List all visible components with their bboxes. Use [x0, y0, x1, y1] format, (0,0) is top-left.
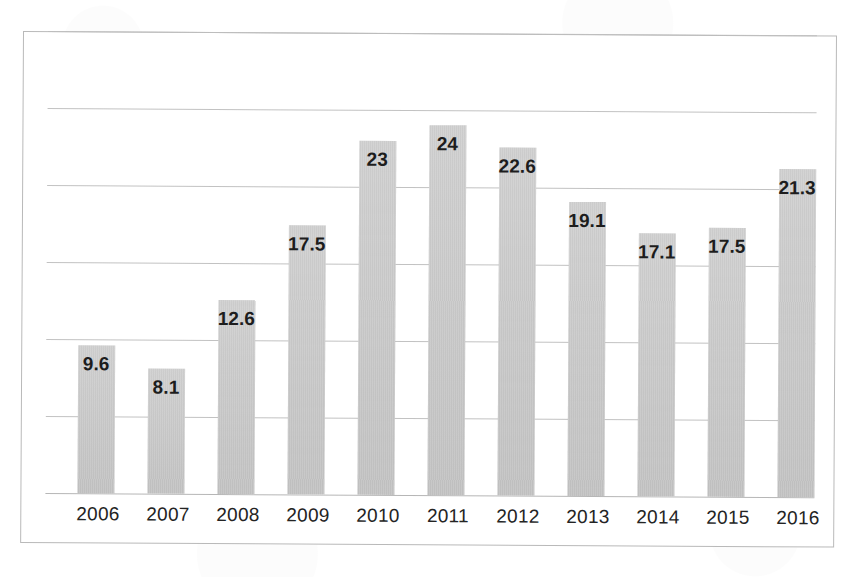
page-canvas: 9.68.112.617.5232422.619.117.117.521.3 2…	[0, 0, 858, 577]
x-tick-2013: 2013	[553, 506, 623, 528]
bar-value-label-2008: 12.6	[201, 308, 271, 330]
bar-group-2011[interactable]: 24	[410, 33, 483, 495]
x-tick-2016: 2016	[763, 507, 833, 529]
bar-2016[interactable]	[777, 169, 816, 497]
bar-value-label-2016: 21.3	[762, 177, 832, 199]
bar-group-2009[interactable]: 17.5	[270, 32, 343, 494]
x-tick-2011: 2011	[413, 505, 483, 527]
bar-value-label-2007: 8.1	[131, 377, 201, 399]
x-axis-tick-labels: 2006200720082009201020112012201320142015…	[48, 503, 817, 543]
bar-group-2006[interactable]: 9.6	[60, 31, 133, 493]
bar-group-2012[interactable]: 22.6	[480, 33, 553, 495]
bar-group-2016[interactable]: 21.3	[760, 35, 833, 497]
x-tick-2008: 2008	[203, 504, 273, 526]
x-tick-2010: 2010	[343, 505, 413, 527]
x-tick-2007: 2007	[133, 503, 203, 525]
bar-2009[interactable]	[287, 225, 326, 495]
bars-group: 9.68.112.617.5232422.619.117.117.521.3	[45, 31, 817, 497]
x-tick-2015: 2015	[693, 507, 763, 529]
bar-value-label-2013: 19.1	[552, 210, 622, 232]
bar-value-label-2011: 24	[412, 133, 482, 155]
bar-group-2010[interactable]: 23	[340, 33, 413, 495]
bar-group-2014[interactable]: 17.1	[620, 34, 693, 496]
x-tick-2006: 2006	[63, 503, 133, 525]
bar-2010[interactable]	[357, 141, 396, 495]
x-tick-2014: 2014	[623, 506, 693, 528]
bar-value-label-2014: 17.1	[622, 241, 692, 263]
x-tick-2009: 2009	[273, 504, 343, 526]
bar-value-label-2006: 9.6	[61, 353, 131, 375]
bar-2015[interactable]	[707, 227, 746, 497]
bar-group-2015[interactable]: 17.5	[690, 35, 763, 497]
bar-value-label-2009: 17.5	[272, 233, 342, 255]
bar-2014[interactable]	[637, 233, 675, 497]
bar-value-label-2015: 17.5	[692, 235, 762, 257]
bar-value-label-2012: 22.6	[482, 155, 552, 177]
plot-area: 9.68.112.617.5232422.619.117.117.521.3	[45, 31, 817, 497]
bar-group-2008[interactable]: 12.6	[200, 32, 273, 494]
bar-2011[interactable]	[427, 126, 466, 496]
bar-2013[interactable]	[567, 202, 606, 496]
bar-group-2007[interactable]: 8.1	[130, 31, 203, 493]
bar-value-label-2010: 23	[342, 148, 412, 170]
x-tick-2012: 2012	[483, 505, 553, 527]
bar-2012[interactable]	[497, 147, 536, 495]
bar-group-2013[interactable]: 19.1	[550, 34, 623, 496]
